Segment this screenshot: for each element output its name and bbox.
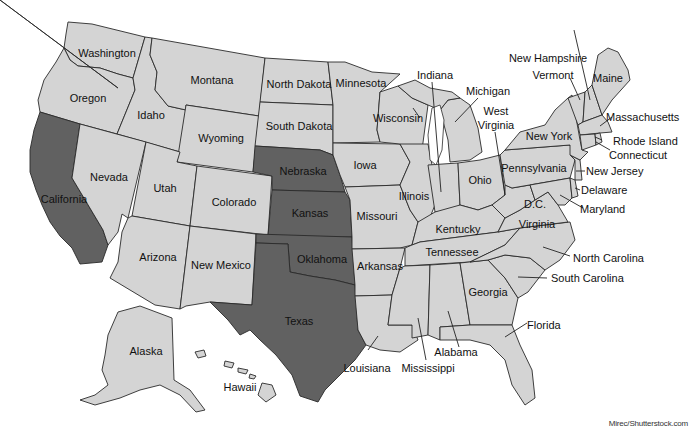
label-arkansas: Arkansas bbox=[357, 260, 403, 272]
label-north-carolina: North Carolina bbox=[573, 252, 644, 264]
image-credit: Mirec/Shutterstock.com bbox=[609, 419, 688, 428]
label-alaska: Alaska bbox=[129, 345, 162, 357]
label-illinois: Illinois bbox=[399, 190, 430, 202]
label-alabama: Alabama bbox=[434, 346, 477, 358]
label-michigan: Michigan bbox=[466, 85, 510, 97]
label-montana: Montana bbox=[191, 74, 234, 86]
label-washington: Washington bbox=[78, 47, 136, 59]
label-wisconsin: Wisconsin bbox=[373, 112, 423, 124]
label-south-dakota: South Dakota bbox=[266, 120, 333, 132]
label-north-dakota: North Dakota bbox=[267, 78, 332, 90]
state-michigan bbox=[440, 98, 482, 162]
label-tennessee: Tennessee bbox=[425, 246, 478, 258]
label-wyoming: Wyoming bbox=[198, 132, 244, 144]
label-massachusetts: Massachusetts bbox=[606, 111, 679, 123]
label-new-jersey: New Jersey bbox=[586, 165, 643, 177]
label-south-carolina: South Carolina bbox=[551, 272, 624, 284]
label-colorado: Colorado bbox=[212, 196, 257, 208]
state-connecticut bbox=[580, 134, 596, 150]
label-california: California bbox=[41, 193, 87, 205]
label-ohio: Ohio bbox=[468, 174, 491, 186]
label-maryland: Maryland bbox=[580, 203, 625, 215]
label-connecticut: Connecticut bbox=[609, 149, 667, 161]
state-hawaii bbox=[258, 383, 276, 402]
label-new-mexico: New Mexico bbox=[191, 259, 251, 271]
label-kentucky: Kentucky bbox=[435, 223, 480, 235]
label-maine: Maine bbox=[593, 72, 623, 84]
label-idaho: Idaho bbox=[137, 109, 165, 121]
label-indiana: Indiana bbox=[417, 69, 453, 81]
label-arizona: Arizona bbox=[139, 251, 176, 263]
label-mississippi: Mississippi bbox=[401, 362, 454, 374]
label-hawaii: Hawaii bbox=[223, 381, 256, 393]
label-nevada: Nevada bbox=[90, 171, 128, 183]
label-oklahoma: Oklahoma bbox=[297, 253, 347, 265]
label-new-york: New York bbox=[526, 130, 572, 142]
label-georgia: Georgia bbox=[468, 286, 507, 298]
label-kansas: Kansas bbox=[292, 207, 329, 219]
state-hawaii-isles bbox=[195, 350, 256, 379]
label-missouri: Missouri bbox=[357, 210, 398, 222]
label-new-hampshire: New Hampshire bbox=[509, 52, 587, 64]
label-delaware: Delaware bbox=[581, 184, 627, 196]
label-pennsylvania: Pennsylvania bbox=[501, 162, 566, 174]
label-florida: Florida bbox=[527, 319, 561, 331]
label-vermont: Vermont bbox=[533, 69, 574, 81]
label-west-virginia-1: West bbox=[484, 105, 509, 117]
state-alaska-main bbox=[80, 306, 205, 412]
label-minnesota: Minnesota bbox=[336, 77, 387, 89]
label-west-virginia-2: Virginia bbox=[478, 119, 515, 131]
label-dc: D.C. bbox=[524, 198, 546, 210]
label-virginia: Virginia bbox=[519, 218, 556, 230]
label-texas: Texas bbox=[285, 315, 314, 327]
label-louisiana: Louisiana bbox=[343, 362, 390, 374]
label-rhode-island: Rhode Island bbox=[613, 135, 678, 147]
label-oregon: Oregon bbox=[70, 92, 107, 104]
label-nebraska: Nebraska bbox=[279, 165, 326, 177]
label-iowa: Iowa bbox=[353, 159, 376, 171]
label-utah: Utah bbox=[153, 182, 176, 194]
